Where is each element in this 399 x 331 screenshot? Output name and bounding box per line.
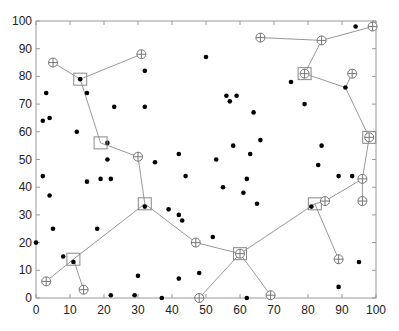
data-point <box>61 254 66 259</box>
data-point <box>241 190 246 195</box>
x-tick-label: 50 <box>199 303 213 317</box>
x-tick-label: 10 <box>63 303 77 317</box>
y-tick-label: 10 <box>19 263 33 277</box>
circle-plus-icon <box>256 33 265 42</box>
data-point <box>177 213 182 218</box>
y-tick-label: 20 <box>19 236 33 250</box>
data-point <box>251 110 256 115</box>
link-lines <box>46 27 372 298</box>
link-line <box>80 79 100 143</box>
data-point <box>177 152 182 157</box>
data-point <box>357 260 362 265</box>
circle-plus-icon <box>358 174 367 183</box>
link-line <box>260 38 321 41</box>
data-point <box>71 260 76 265</box>
data-point <box>75 130 80 135</box>
circle-plus-icon <box>79 285 88 294</box>
data-point <box>353 24 358 29</box>
data-point <box>177 276 182 281</box>
circle-plus-icon <box>334 255 343 264</box>
data-point <box>41 118 46 123</box>
data-point <box>248 152 253 157</box>
data-point <box>98 177 103 182</box>
y-tick-label: 50 <box>19 153 33 167</box>
circle-plus-icon <box>134 152 143 161</box>
circle-plus-icon <box>137 50 146 59</box>
link-line <box>101 143 138 157</box>
link-line <box>315 204 339 259</box>
y-tick-label: 0 <box>25 291 32 305</box>
y-tick-label: 60 <box>19 125 33 139</box>
data-point <box>255 202 260 207</box>
x-tick-label: 90 <box>335 303 349 317</box>
data-point <box>47 116 52 121</box>
data-point <box>221 185 226 190</box>
data-point <box>336 285 341 290</box>
y-tick-label: 80 <box>19 69 33 83</box>
link-line <box>240 204 315 254</box>
circle-plus-icon <box>195 294 204 303</box>
circle-plus-icon <box>368 22 377 31</box>
link-line <box>199 254 240 298</box>
center-markers <box>67 68 376 266</box>
y-tick-label: 40 <box>19 180 33 194</box>
data-point <box>180 218 185 223</box>
data-point <box>245 296 250 301</box>
link-line <box>325 179 362 201</box>
circle-plus-icon <box>358 197 367 206</box>
link-line <box>345 87 369 137</box>
data-point <box>78 77 83 82</box>
link-line <box>322 27 373 41</box>
data-point <box>234 93 239 98</box>
data-point <box>224 93 229 98</box>
link-line <box>46 259 73 281</box>
node-markers <box>42 22 377 302</box>
x-tick-label: 60 <box>233 303 247 317</box>
data-point <box>95 226 100 231</box>
data-point <box>109 177 114 182</box>
data-point <box>44 91 49 96</box>
data-point <box>211 235 216 240</box>
data-point <box>85 179 90 184</box>
data-point <box>109 293 114 298</box>
x-tick-label: 70 <box>267 303 281 317</box>
data-point <box>34 240 39 245</box>
link-line <box>305 40 322 73</box>
data-point <box>85 91 90 96</box>
y-tick-label: 70 <box>19 97 33 111</box>
circle-plus-icon <box>42 277 51 286</box>
data-point <box>197 271 202 276</box>
circle-plus-icon <box>300 69 309 78</box>
data-point <box>153 160 158 165</box>
data-point <box>214 157 219 162</box>
scatter-chart: 0102030405060708090100010203040506070809… <box>0 0 399 331</box>
data-point <box>289 80 294 85</box>
data-point <box>183 174 188 179</box>
x-tick-label: 40 <box>165 303 179 317</box>
data-point <box>160 296 165 301</box>
data-point <box>143 204 148 209</box>
data-point <box>112 105 117 110</box>
circle-plus-icon <box>348 69 357 78</box>
y-tick-label: 30 <box>19 208 33 222</box>
link-line <box>73 204 144 259</box>
data-points <box>34 24 362 300</box>
data-point <box>319 143 324 148</box>
data-point <box>143 105 148 110</box>
circle-plus-icon <box>236 249 245 258</box>
data-point <box>47 193 52 198</box>
data-point <box>336 174 341 179</box>
data-point <box>231 143 236 148</box>
data-point <box>204 55 209 60</box>
data-point <box>258 138 263 143</box>
data-point <box>143 69 148 74</box>
circle-plus-icon <box>49 58 58 67</box>
link-line <box>80 54 141 79</box>
data-point <box>51 226 56 231</box>
data-point <box>105 157 110 162</box>
x-tick-label: 100 <box>366 303 386 317</box>
x-tick-label: 30 <box>131 303 145 317</box>
data-point <box>343 85 348 90</box>
circle-plus-icon <box>321 197 330 206</box>
link-line <box>138 157 145 204</box>
